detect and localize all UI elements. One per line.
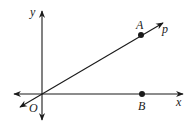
point-b <box>139 91 145 97</box>
point-a-label: A <box>135 18 144 32</box>
diagram-canvas: y x O p A B <box>0 0 189 128</box>
x-axis-label: x <box>175 95 182 109</box>
coordinate-diagram: y x O p A B <box>0 0 189 128</box>
line-p-label: p <box>161 22 168 36</box>
origin-label: O <box>29 101 38 115</box>
point-b-label: B <box>138 99 146 113</box>
point-a <box>138 32 144 38</box>
y-axis-label: y <box>29 5 36 19</box>
